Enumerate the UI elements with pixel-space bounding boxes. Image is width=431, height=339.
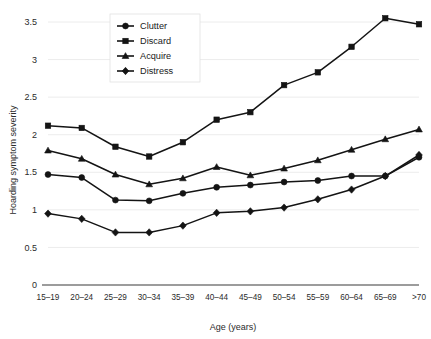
x-tick-label-4: 35–39 [172,293,195,302]
marker-diamond [314,196,321,203]
marker-diamond [146,229,153,236]
y-tick-label-1: 1 [32,205,37,215]
marker-square [180,140,185,145]
marker-square [113,144,118,149]
gridlines [48,22,419,247]
legend-label-distress: Distress [140,66,174,76]
marker-diamond [78,215,85,222]
marker-triangle [45,147,52,153]
marker-square [349,44,354,49]
marker-circle [123,23,129,29]
marker-circle [214,184,220,190]
legend-label-discard: Discard [140,36,171,46]
y-tick-label-0.5: 0.5 [24,243,37,253]
marker-square [123,38,128,43]
x-tick-label-0: 15–19 [37,293,60,302]
marker-circle [146,198,152,204]
marker-circle [349,173,355,179]
marker-square [315,70,320,75]
x-axis-tick-labels: 15–1920–2425–2930–3435–3940–4445–4950–54… [37,293,427,302]
legend-label-acquire: Acquire [140,51,171,61]
x-tick-label-6: 45–49 [239,293,262,302]
x-tick-label-10: 65–69 [374,293,397,302]
marker-circle [247,182,253,188]
chart-legend: ClutterDiscardAcquireDistress [110,14,200,82]
marker-diamond [247,208,254,215]
y-tick-label-3.5: 3.5 [24,17,37,27]
y-tick-label-1.5: 1.5 [24,167,37,177]
y-tick-label-2.5: 2.5 [24,92,37,102]
y-axis-title: Hoarding symptom severity [8,105,18,215]
series-line-distress [48,155,419,232]
marker-circle [113,197,119,203]
series-discard [45,16,421,160]
legend-item-distress[interactable]: Distress [117,66,174,76]
marker-diamond [112,229,119,236]
chart-canvas: 00.511.522.533.5 15–1920–2425–2930–3435–… [0,0,431,339]
x-tick-label-1: 20–24 [70,293,93,302]
x-tick-label-5: 40–44 [205,293,228,302]
marker-square [281,82,286,87]
series-distress [45,151,423,236]
marker-circle [281,179,287,185]
marker-square [248,109,253,114]
x-tick-label-3: 30–34 [138,293,161,302]
marker-diamond [348,186,355,193]
y-tick-label-3: 3 [32,55,37,65]
x-tick-label-9: 60–64 [340,293,363,302]
y-tick-label-2: 2 [32,130,37,140]
data-series [45,16,423,237]
marker-square [45,123,50,128]
marker-circle [45,172,51,178]
hoarding-symptom-severity-chart: 00.511.522.533.5 15–1920–2425–2930–3435–… [0,0,431,339]
x-tick-label-11: >70 [412,293,426,302]
legend-label-clutter: Clutter [140,21,167,31]
marker-square [416,22,421,27]
marker-diamond [180,222,187,229]
x-axis-title: Age (years) [210,322,257,332]
x-tick-label-8: 55–59 [306,293,329,302]
marker-square [79,125,84,130]
x-tick-label-7: 50–54 [273,293,296,302]
marker-square [383,16,388,21]
marker-triangle [416,126,423,132]
series-line-clutter [48,157,419,201]
marker-square [146,154,151,159]
series-line-discard [48,18,419,156]
marker-triangle [213,164,220,170]
series-clutter [45,154,422,203]
marker-diamond [382,172,389,179]
marker-circle [180,190,186,196]
marker-diamond [45,210,52,217]
marker-circle [315,178,321,184]
marker-circle [79,175,85,181]
x-tick-label-2: 25–29 [104,293,127,302]
y-axis-tick-labels: 00.511.522.533.5 [24,17,37,290]
marker-square [214,117,219,122]
y-tick-label-0: 0 [32,280,37,290]
